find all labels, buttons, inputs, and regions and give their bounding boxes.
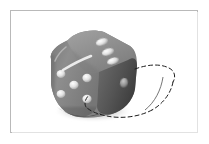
pip-left-5	[82, 95, 91, 103]
pip-left-4	[57, 90, 66, 98]
photo-canvas	[11, 11, 197, 132]
pip-left-1	[57, 70, 66, 78]
ghost-outline-top	[135, 65, 175, 82]
pip-left-3	[69, 81, 78, 89]
ghost-outline-right	[152, 82, 173, 110]
die-photo-scene	[11, 11, 197, 132]
ghost-outline-pen-stroke	[145, 77, 163, 110]
figure-root	[0, 0, 209, 144]
pip-left-2	[82, 74, 91, 82]
